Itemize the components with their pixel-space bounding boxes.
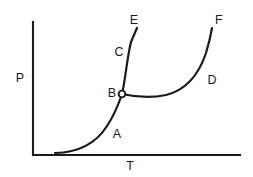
- x-axis-label: T: [126, 159, 134, 173]
- point-label-b: B: [108, 86, 117, 100]
- point-label-c: C: [114, 45, 123, 59]
- point-label-e: E: [130, 13, 139, 27]
- point-b-marker: [119, 91, 126, 98]
- phase-diagram-figure: P T A B C D E F: [0, 0, 253, 177]
- point-label-a: A: [113, 127, 122, 141]
- point-label-f: F: [215, 13, 223, 27]
- phase-diagram-canvas: P T A B C D E F: [0, 0, 253, 177]
- point-label-d: D: [207, 73, 216, 87]
- y-axis-label: P: [16, 71, 24, 85]
